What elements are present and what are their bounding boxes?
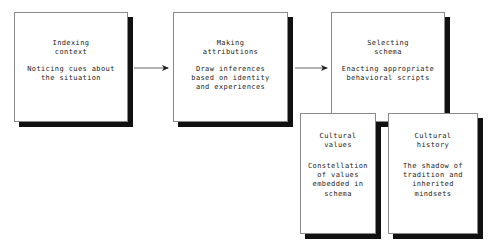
node-title-selecting-schema: Selecting schema [332, 39, 444, 57]
node-title-indexing-context: Indexing context [15, 39, 127, 57]
node-selecting-schema: Selecting schema Enacting appropriate be… [331, 12, 445, 122]
node-cultural-values: Cultural values Constellation of values … [300, 113, 376, 234]
node-making-attributions: Making attributions Draw inferences base… [173, 12, 288, 122]
node-body-making-attributions: Draw inferences based on identity and ex… [174, 65, 287, 93]
node-title-cultural-history: Cultural history [389, 132, 477, 150]
node-body-indexing-context: Noticing cues about the situation [15, 65, 127, 83]
node-body-selecting-schema: Enacting appropriate behavioral scripts [332, 65, 444, 83]
node-cultural-history: Cultural history The shadow of tradition… [388, 113, 478, 234]
node-title-making-attributions: Making attributions [174, 39, 287, 57]
node-body-cultural-values: Constellation of values embedded in sche… [301, 162, 375, 199]
flowchart-diagram: Indexing context Noticing cues about the… [0, 0, 492, 246]
node-body-cultural-history: The shadow of tradition and inherited mi… [389, 162, 477, 199]
node-indexing-context: Indexing context Noticing cues about the… [14, 12, 128, 122]
node-title-cultural-values: Cultural values [301, 132, 375, 150]
